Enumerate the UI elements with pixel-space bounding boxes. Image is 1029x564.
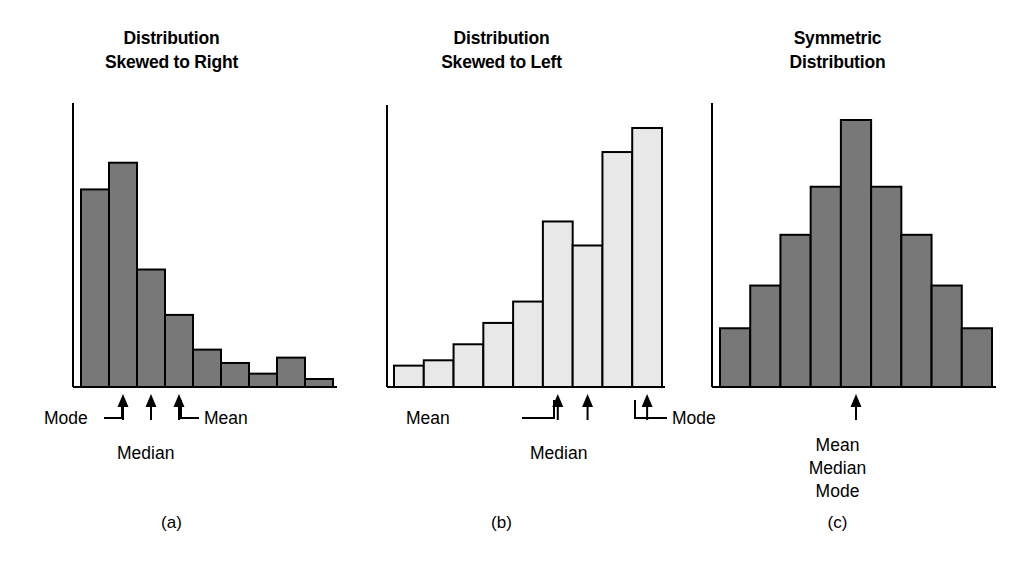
annotation-arrow-head — [582, 394, 593, 407]
caption-a: (a) — [0, 513, 343, 533]
histogram-bar — [81, 189, 109, 387]
distribution-shapes-figure: Distribution Skewed to Right Mode Mean M… — [0, 0, 1029, 564]
histogram-bar — [632, 128, 662, 387]
caption-b: (b) — [330, 513, 673, 533]
histogram-bar — [962, 328, 992, 387]
leader-line-mode-a — [104, 400, 122, 418]
leader-line-mean-a — [181, 400, 199, 418]
annotation-arrow-head — [642, 394, 653, 407]
label-mean-a: Mean — [204, 408, 248, 428]
histogram-bar — [277, 358, 305, 387]
panel-skewed-left: Distribution Skewed to Left Mean Mode Me… — [330, 0, 673, 564]
leader-line-mean-b — [522, 400, 554, 418]
histogram-bar — [109, 163, 137, 387]
histogram-bar — [543, 221, 573, 387]
histogram-bar — [249, 374, 277, 387]
histogram-bar — [841, 120, 871, 387]
histogram-bar — [483, 323, 513, 387]
leader-line-mode-b — [635, 400, 667, 418]
annotation-arrow-head — [851, 394, 862, 407]
label-stack-c: Mean Median Mode — [666, 434, 1009, 503]
panel-b-plot — [330, 0, 673, 420]
panel-symmetric: Symmetric Distribution Mean Median Mode … — [666, 0, 1009, 564]
caption-c: (c) — [666, 513, 1009, 533]
histogram-bar — [901, 235, 931, 387]
histogram-bar — [137, 270, 165, 387]
histogram-bar — [513, 302, 543, 387]
annotation-arrow-head — [174, 394, 185, 407]
bars-c — [720, 120, 992, 387]
histogram-bar — [424, 360, 454, 387]
histogram-bar — [750, 286, 780, 387]
bars-b — [394, 128, 662, 387]
histogram-bar — [932, 286, 962, 387]
histogram-bar — [193, 350, 221, 387]
label-mode-c: Mode — [666, 480, 1009, 503]
histogram-bar — [221, 363, 249, 387]
label-mean-c: Mean — [666, 434, 1009, 457]
histogram-c — [666, 0, 1009, 420]
annotation-arrows-a — [118, 394, 185, 420]
panel-skewed-right: Distribution Skewed to Right Mode Mean M… — [0, 0, 343, 564]
panel-a-plot — [0, 0, 343, 420]
label-mean-b: Mean — [406, 408, 450, 428]
label-mode-a: Mode — [44, 408, 88, 428]
histogram-bar — [871, 187, 901, 387]
histogram-bar — [602, 152, 632, 387]
annotation-arrows-c — [851, 394, 862, 420]
histogram-bar — [780, 235, 810, 387]
histogram-bar — [305, 379, 333, 387]
panel-c-plot — [666, 0, 1009, 420]
annotation-arrow-head — [146, 394, 157, 407]
histogram-bar — [165, 315, 193, 387]
label-median-b: Median — [530, 443, 587, 463]
bars-a — [81, 163, 333, 387]
histogram-bar — [394, 366, 424, 387]
histogram-bar — [720, 328, 750, 387]
histogram-b — [330, 0, 673, 420]
histogram-a — [0, 0, 343, 420]
label-median-a: Median — [117, 443, 174, 463]
histogram-bar — [811, 187, 841, 387]
histogram-bar — [573, 245, 603, 387]
annotation-arrows-b — [552, 394, 652, 420]
label-median-c: Median — [666, 457, 1009, 480]
histogram-bar — [454, 344, 484, 387]
